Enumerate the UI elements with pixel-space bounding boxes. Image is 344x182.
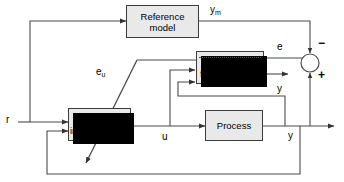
label-e: e [277,41,283,52]
summing-junction-minus: − [318,38,325,48]
label-y-process: y [288,130,293,141]
label-y-forward: y [277,83,282,94]
label-eu: eu [96,66,105,77]
wire-r-to-reference [30,21,126,122]
reference-model-line2: model [150,22,176,33]
reference-model-line1: Reference [141,11,185,22]
process-line1: Process [217,120,251,131]
label-u: u [162,131,168,142]
forward-model-line2: forward model [200,68,260,79]
block-reference-model[interactable]: Reference model [126,5,199,38]
inverse-model-line2: inverse model [70,125,129,136]
wire-ym [199,21,310,53]
block-process[interactable]: Process [205,110,263,141]
label-r: r [6,114,9,125]
block-diagram-canvas: Reference model NN forward model NN inve… [0,0,344,182]
forward-model-line1: NN [223,57,237,68]
forward-model-dotted-line [199,57,261,58]
block-nn-forward-model[interactable]: NN forward model [196,51,264,84]
wire-u-to-forward [170,70,195,126]
summing-junction-plus: + [318,70,325,80]
inverse-model-line1: NN [93,114,107,125]
summing-junction-circle [301,54,319,72]
block-nn-inverse-model[interactable]: NN inverse model [68,108,131,141]
label-ym: ym [210,4,221,15]
